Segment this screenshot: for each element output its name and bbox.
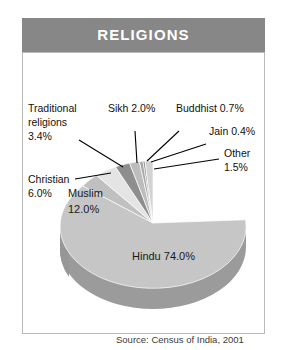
chart-page: RELIGIONS: [0, 0, 283, 350]
label-hindu: Hindu 74.0%: [132, 250, 195, 262]
label-traditional-line3: 3.4%: [28, 130, 52, 142]
leader-line-other: [154, 159, 219, 169]
label-traditional-line2: religions: [28, 116, 67, 128]
pie-chart-svg: Traditional religions 3.4% Sikh 2.0% Bud…: [23, 87, 266, 350]
leader-line-jain: [151, 144, 206, 162]
source-note: Source: Census of India, 2001: [116, 334, 244, 345]
label-traditional-line1: Traditional: [28, 102, 77, 114]
label-muslim-line1: Muslim: [68, 187, 103, 199]
page-title: RELIGIONS: [22, 18, 265, 52]
leader-line-buddhist: [147, 131, 179, 161]
label-jain: Jain 0.4%: [209, 125, 255, 137]
label-sikh: Sikh 2.0%: [108, 102, 155, 114]
label-christian-line2: 6.0%: [28, 187, 52, 199]
religions-chart-panel: RELIGIONS: [22, 18, 265, 334]
label-other-line1: Other: [224, 147, 251, 159]
chart-body: Traditional religions 3.4% Sikh 2.0% Bud…: [22, 52, 265, 334]
label-christian-line1: Christian: [28, 173, 70, 185]
leader-line-traditional: [79, 140, 123, 167]
label-buddhist: Buddhist 0.7%: [176, 102, 244, 114]
chart-header-bar: RELIGIONS: [22, 18, 265, 52]
label-other-line2: 1.5%: [224, 161, 248, 173]
label-muslim-line2: 12.0%: [68, 203, 99, 215]
leader-line-sikh: [135, 131, 137, 163]
pie-top-faces: [60, 161, 246, 288]
